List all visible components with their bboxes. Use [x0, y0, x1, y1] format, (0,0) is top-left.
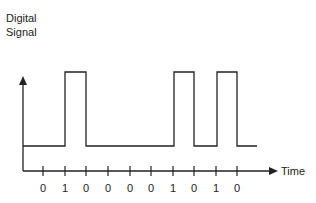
bit-label: 0	[102, 182, 114, 194]
y-axis-arrow-icon	[19, 76, 27, 85]
bit-label: 0	[188, 182, 200, 194]
x-axis-arrow-icon	[269, 167, 278, 175]
bit-label: 0	[145, 182, 157, 194]
bit-label: 0	[231, 182, 243, 194]
bit-label: 1	[59, 182, 71, 194]
bit-label: 1	[167, 182, 179, 194]
signal-waveform	[23, 72, 257, 146]
bit-label: 0	[37, 182, 49, 194]
bit-label: 1	[210, 182, 222, 194]
x-axis-label: Time	[281, 165, 305, 177]
bit-label: 0	[124, 182, 136, 194]
digital-signal-diagram	[0, 0, 316, 203]
bit-label: 0	[80, 182, 92, 194]
